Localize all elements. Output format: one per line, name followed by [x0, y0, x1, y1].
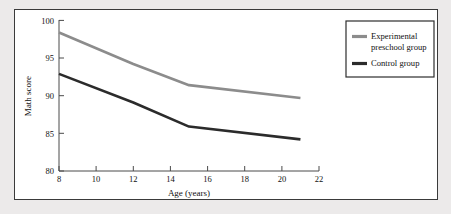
x-axis-tick-labels: 8 10 12 14 16 18 20 22: [57, 174, 323, 184]
chart-legend: Experimental preschool group Control gro…: [346, 21, 434, 77]
legend-label-experimental-line2: preschool group: [371, 42, 427, 52]
y-axis-title: Math score: [23, 76, 33, 116]
figure-container: 100 95 90 85 80 8 10 12 14: [0, 0, 451, 214]
y-axis-ticks: [59, 20, 64, 171]
x-tick-label-10: 10: [92, 174, 101, 184]
x-axis-title: Age (years): [168, 188, 210, 198]
y-tick-label-90: 90: [46, 91, 55, 101]
legend-label-control-line1: Control group: [371, 58, 419, 68]
x-tick-label-12: 12: [129, 174, 138, 184]
chart-plot-area: 100 95 90 85 80 8 10 12 14: [15, 10, 439, 201]
x-tick-label-18: 18: [240, 174, 249, 184]
y-tick-label-100: 100: [41, 16, 54, 26]
figure-frame: 100 95 90 85 80 8 10 12 14: [14, 9, 438, 200]
legend-label-experimental-line1: Experimental: [371, 31, 418, 41]
x-tick-label-16: 16: [203, 174, 212, 184]
x-tick-label-22: 22: [315, 174, 324, 184]
line-series-control-group: [59, 74, 300, 140]
y-tick-label-95: 95: [46, 53, 55, 63]
y-tick-label-85: 85: [46, 129, 55, 139]
x-axis-ticks: [59, 166, 319, 171]
x-tick-label-20: 20: [278, 174, 287, 184]
x-tick-label-8: 8: [57, 174, 61, 184]
x-tick-label-14: 14: [166, 174, 175, 184]
y-axis-tick-labels: 100 95 90 85 80: [41, 16, 54, 177]
y-tick-label-80: 80: [46, 166, 55, 176]
